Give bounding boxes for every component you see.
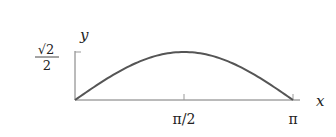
x-tick-label-pi: π xyxy=(288,111,297,127)
y-tick-numerator: √2 xyxy=(38,42,55,57)
chart: y x π/2 π √2 2 xyxy=(0,0,336,137)
y-tick-label-sqrt2-over-2: √2 2 xyxy=(35,42,59,73)
y-tick-denominator: 2 xyxy=(43,58,51,73)
y-axis-label: y xyxy=(79,26,89,44)
x-tick-label-half-pi: π/2 xyxy=(173,111,196,127)
curve-series xyxy=(75,52,293,100)
x-axis-label: x xyxy=(316,92,325,110)
